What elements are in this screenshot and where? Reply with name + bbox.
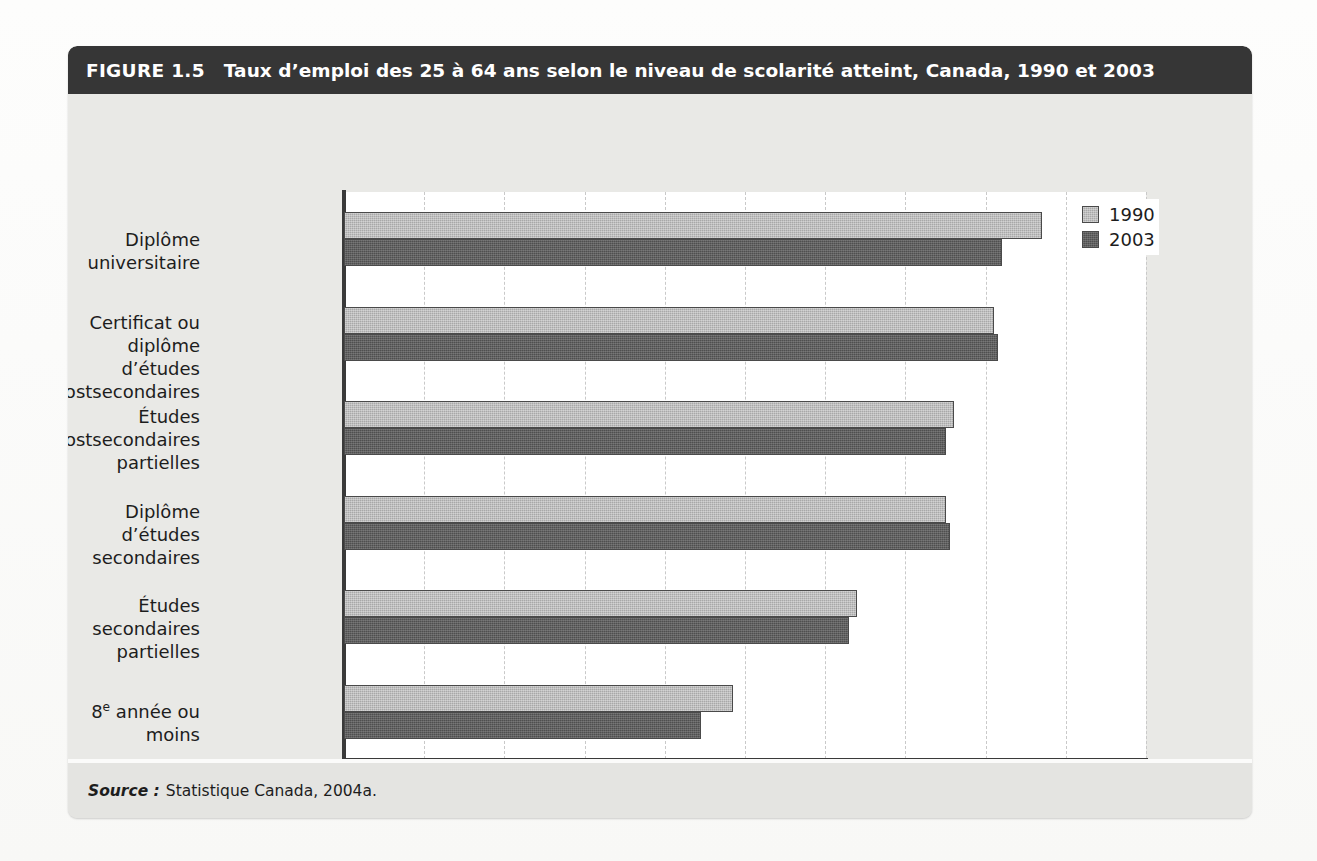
chart-legend: 1990 2003 [1078, 199, 1159, 255]
gridline [504, 192, 506, 759]
figure-title: Taux d’emploi des 25 à 64 ans selon le n… [224, 60, 1155, 81]
category-label: Certificat ou diplômed’études postsecond… [68, 311, 200, 403]
legend-label-2003: 2003 [1109, 229, 1155, 250]
gridline [745, 192, 747, 759]
legend-label-1990: 1990 [1109, 204, 1155, 225]
figure-number: FIGURE 1.5 [86, 60, 205, 81]
category-label: Diplôme universitaire [68, 228, 200, 274]
gridline [585, 192, 587, 759]
figure-header: FIGURE 1.5 Taux d’emploi des 25 à 64 ans… [68, 46, 1252, 94]
gridline [1066, 192, 1068, 759]
legend-item-2003: 2003 [1082, 227, 1155, 252]
figure-container: FIGURE 1.5 Taux d’emploi des 25 à 64 ans… [68, 46, 1252, 818]
category-label-line: partielles [68, 451, 200, 474]
category-label: 8e année ou moins [68, 700, 200, 746]
source-label: Source : [88, 782, 160, 800]
bar-group [344, 401, 1146, 455]
category-label-line: Certificat ou diplôme [68, 311, 200, 357]
bar-2003 [344, 712, 701, 739]
bar-group [344, 496, 1146, 550]
category-label-line: partielles [68, 640, 200, 663]
bar-2003 [344, 239, 1002, 266]
bar-1990 [344, 307, 994, 334]
category-label: Diplôme d’étudessecondaires [68, 500, 200, 569]
source-text: Statistique Canada, 2004a. [166, 782, 377, 800]
bar-2003 [344, 617, 849, 644]
bar-group [344, 685, 1146, 739]
bar-2003 [344, 428, 946, 455]
category-label-line: Diplôme universitaire [68, 228, 200, 274]
gridline [986, 192, 988, 759]
legend-item-1990: 1990 [1082, 202, 1155, 227]
category-label-line: secondaires [68, 546, 200, 569]
legend-swatch-1990-icon [1082, 206, 1099, 223]
chart-canvas: 0102030405060708090100 Diplôme universit… [68, 94, 1252, 757]
gridline [905, 192, 907, 759]
gridline [665, 192, 667, 759]
source-row: Source : Statistique Canada, 2004a. [68, 763, 1252, 818]
category-label-line: 8e année ou moins [68, 700, 200, 746]
y-axis-line [342, 190, 346, 762]
bar-group [344, 590, 1146, 644]
category-label-line: Études secondaires [68, 594, 200, 640]
category-label-line: d’études postsecondaires [68, 357, 200, 403]
gridline [825, 192, 827, 759]
bar-2003 [344, 334, 998, 361]
bar-1990 [344, 401, 954, 428]
category-label-line: Études postsecondaires [68, 405, 200, 451]
bar-1990 [344, 496, 946, 523]
category-label: Études secondairespartielles [68, 594, 200, 663]
category-label: Études postsecondairespartielles [68, 405, 200, 474]
bar-1990 [344, 590, 857, 617]
gridline [424, 192, 426, 759]
bar-2003 [344, 523, 950, 550]
gridline [1146, 192, 1148, 759]
bar-1990 [344, 685, 733, 712]
category-label-line: Diplôme d’études [68, 500, 200, 546]
bar-1990 [344, 212, 1042, 239]
bar-group [344, 212, 1146, 266]
legend-swatch-2003-icon [1082, 231, 1099, 248]
bar-group [344, 307, 1146, 361]
